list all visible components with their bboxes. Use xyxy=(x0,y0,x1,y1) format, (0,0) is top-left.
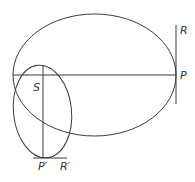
small-ellipse xyxy=(9,62,76,161)
label-r-prime: R′ xyxy=(60,160,71,173)
label-p-prime: P′ xyxy=(38,160,48,173)
orbit-diagram: R P S P′ R′ xyxy=(0,0,195,182)
label-s: S xyxy=(33,81,40,94)
label-p: P xyxy=(180,69,187,82)
label-r: R xyxy=(180,24,188,37)
